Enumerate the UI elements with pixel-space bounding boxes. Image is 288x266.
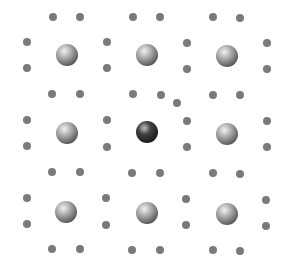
small-atom — [262, 222, 270, 230]
substituted-atom — [136, 121, 158, 143]
small-atom — [76, 168, 84, 176]
small-atom — [236, 14, 244, 22]
small-atom — [209, 169, 217, 177]
lattice-diagram — [0, 0, 288, 266]
small-atom — [49, 13, 57, 21]
host-atom — [56, 122, 78, 144]
small-atom — [23, 194, 31, 202]
small-atom — [183, 117, 191, 125]
small-atom — [263, 65, 271, 73]
small-atom — [236, 170, 244, 178]
small-atom — [209, 91, 217, 99]
small-atom — [103, 38, 111, 46]
small-atom — [236, 247, 244, 255]
small-atom — [183, 65, 191, 73]
small-atom — [103, 116, 111, 124]
small-atom — [157, 91, 165, 99]
small-atom — [129, 13, 137, 21]
small-atom — [76, 245, 84, 253]
small-atom — [128, 169, 136, 177]
small-atom — [23, 64, 31, 72]
lattice-canvas — [0, 0, 288, 266]
host-atom — [216, 203, 238, 225]
small-atom — [156, 169, 164, 177]
small-atom — [48, 168, 56, 176]
small-atom — [209, 13, 217, 21]
small-atom — [128, 246, 136, 254]
small-atom — [263, 117, 271, 125]
large-atoms-group — [55, 44, 238, 225]
small-atom — [183, 143, 191, 151]
interstitial-atom — [173, 99, 181, 107]
small-atom — [23, 116, 31, 124]
host-atom — [56, 44, 78, 66]
small-atom — [103, 64, 111, 72]
small-atom — [76, 13, 84, 21]
small-atom — [48, 245, 56, 253]
small-atom — [102, 221, 110, 229]
small-atom — [182, 221, 190, 229]
small-atom — [23, 142, 31, 150]
small-atom — [263, 143, 271, 151]
small-atom — [156, 13, 164, 21]
small-atom — [262, 196, 270, 204]
small-atom — [23, 38, 31, 46]
small-atom — [182, 195, 190, 203]
interstitial-defect-group — [173, 99, 181, 107]
host-atom — [136, 44, 158, 66]
small-atom — [209, 246, 217, 254]
small-atom — [156, 246, 164, 254]
small-atom — [102, 194, 110, 202]
small-atom — [23, 220, 31, 228]
small-atom — [76, 90, 84, 98]
host-atom — [136, 202, 158, 224]
host-atom — [216, 123, 238, 145]
host-atom — [55, 201, 77, 223]
host-atom — [216, 45, 238, 67]
small-atom — [48, 90, 56, 98]
small-atom — [183, 39, 191, 47]
small-atom — [103, 143, 111, 151]
small-atom — [129, 90, 137, 98]
small-atom — [263, 39, 271, 47]
small-atom — [236, 91, 244, 99]
